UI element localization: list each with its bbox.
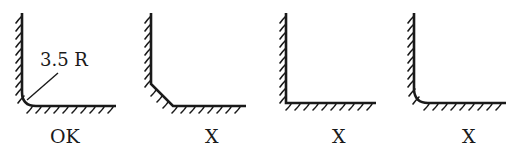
verdict-label-panel-2: X xyxy=(205,127,219,146)
hatch-horizontal xyxy=(27,107,113,113)
wall-profile xyxy=(151,13,246,106)
verdict-label-panel-3: X xyxy=(332,127,346,146)
hatch-horizontal xyxy=(286,104,372,110)
hatch-horizontal xyxy=(424,104,501,110)
verdict-label-panel-4: X xyxy=(462,127,476,146)
verdict-label-panel-1: OK xyxy=(50,127,80,146)
radius-dimension-label: 3.5 R xyxy=(40,51,88,69)
panel-3-sharp-corner xyxy=(280,13,376,110)
wall-profile xyxy=(286,13,376,103)
panel-4-small-radius-corner xyxy=(408,13,506,110)
hatch-horizontal xyxy=(172,107,240,113)
radius-leader-line xyxy=(27,73,58,100)
panel-2-chamfer-corner xyxy=(145,13,246,113)
wall-profile xyxy=(414,13,506,103)
